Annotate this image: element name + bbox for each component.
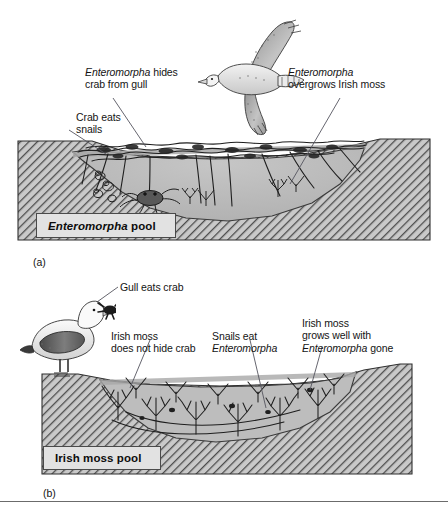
label-snails-eat-enteromorpha: Snails eat Enteromorpha: [212, 330, 277, 355]
label-a1-line1-italic: Enteromorpha: [85, 66, 150, 78]
label-b3-line2-italic: Enteromorpha: [212, 342, 277, 354]
label-crab-eats-snails: Crab eats snails: [76, 111, 121, 136]
figure-container: Enteromorpha hides crab from gull Crab e…: [0, 0, 448, 513]
label-b1-line1: Gull eats crab: [120, 281, 183, 293]
label-a3-line2: overgrows Irish moss: [288, 78, 385, 90]
label-b4-line1: Irish moss: [302, 317, 393, 329]
pool-label-a-italic: Enteromorpha: [48, 220, 128, 232]
pool-label-b: Irish moss pool: [55, 452, 142, 464]
pool-label-a-rest: pool: [128, 220, 156, 232]
label-a2-line1: Crab eats: [76, 111, 121, 123]
label-b2-line2: does not hide crab: [111, 342, 196, 354]
label-b4-line3-rest: gone: [367, 342, 393, 354]
panel-a: Enteromorpha hides crab from gull Crab e…: [0, 0, 448, 272]
label-enteromorpha-overgrows-irish-moss: Enteromorpha overgrows Irish moss: [288, 66, 385, 91]
label-a2-line2: snails: [76, 123, 121, 135]
label-a3-line1-italic: Enteromorpha: [288, 66, 353, 78]
label-b4-line2: grows well with: [302, 329, 393, 341]
label-b2-line1: Irish moss: [111, 330, 196, 342]
label-irish-moss-grows-well: Irish moss grows well with Enteromorpha …: [302, 317, 393, 354]
panel-b: Gull eats crab Irish moss does not hide …: [0, 262, 448, 498]
figure-divider: [0, 501, 448, 502]
label-gull-eats-crab: Gull eats crab: [120, 281, 183, 293]
panel-b-marker: (b): [43, 487, 56, 499]
irish-moss-pool-label-box: Irish moss pool: [43, 446, 161, 470]
label-b3-line1: Snails eat: [212, 330, 277, 342]
enteromorpha-pool-label-box: Enteromorpha pool: [36, 213, 176, 238]
label-a1-line2: crab from gull: [85, 78, 178, 90]
label-b4-line3-italic: Enteromorpha: [302, 342, 367, 354]
label-enteromorpha-hides-crab: Enteromorpha hides crab from gull: [85, 66, 178, 91]
label-a1-line1-rest: hides: [150, 66, 177, 78]
label-irish-moss-does-not-hide-crab: Irish moss does not hide crab: [111, 330, 196, 355]
standing-gull: [20, 290, 116, 382]
